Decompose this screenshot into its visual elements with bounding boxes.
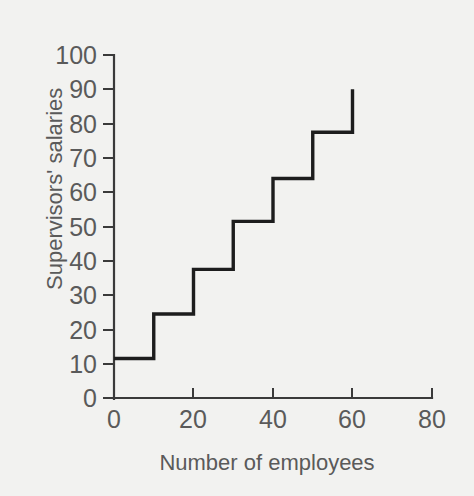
y-axis-ticks: [103, 55, 114, 398]
y-tick-label-20: 20: [69, 316, 97, 344]
chart-page: Supervisors' salaries Number of employee…: [0, 0, 474, 496]
y-tick-label-60: 60: [69, 178, 97, 206]
x-axis-title: Number of employees: [159, 450, 374, 475]
x-axis-ticks: [114, 388, 432, 398]
y-tick-label-70: 70: [69, 144, 97, 172]
x-tick-label-20: 20: [179, 405, 207, 433]
y-tick-label-50: 50: [69, 213, 97, 241]
y-tick-label-90: 90: [69, 75, 97, 103]
x-tick-label-0: 0: [107, 405, 121, 433]
y-tick-label-40: 40: [69, 247, 97, 275]
x-tick-label-80: 80: [418, 405, 446, 433]
x-tick-label-60: 60: [338, 405, 366, 433]
y-tick-label-30: 30: [69, 281, 97, 309]
y-tick-label-10: 10: [69, 350, 97, 378]
step-function-line: [114, 89, 353, 358]
y-axis-title: Supervisors' salaries: [42, 88, 67, 290]
x-tick-label-40: 40: [259, 405, 287, 433]
y-tick-label-100: 100: [55, 41, 97, 69]
step-chart: Supervisors' salaries Number of employee…: [0, 0, 474, 496]
y-tick-label-0: 0: [83, 384, 97, 412]
y-tick-label-80: 80: [69, 110, 97, 138]
x-axis-tick-labels: 0 20 40 60 80: [107, 405, 446, 433]
